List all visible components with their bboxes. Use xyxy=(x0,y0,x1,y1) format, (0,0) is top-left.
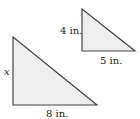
large-vertical-leg-label: x xyxy=(4,66,10,77)
large-horizontal-leg-label: 8 in. xyxy=(46,108,68,119)
small-vertical-leg-label: 4 in. xyxy=(60,25,82,36)
similar-triangles-diagram: x 8 in. 4 in. 5 in. xyxy=(0,0,140,119)
small-horizontal-leg-label: 5 in. xyxy=(100,55,122,66)
small-triangle xyxy=(82,9,135,51)
